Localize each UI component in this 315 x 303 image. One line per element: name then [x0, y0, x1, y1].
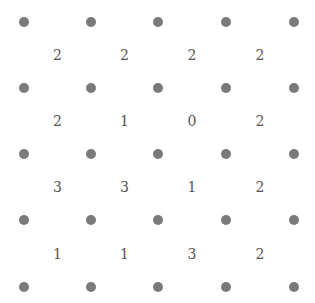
cell-clue[interactable]: 2	[38, 35, 78, 75]
grid-dot	[86, 215, 96, 225]
cell-clue[interactable]: 2	[240, 35, 280, 75]
grid-dot	[289, 282, 299, 292]
grid-dot	[86, 282, 96, 292]
grid-dot	[221, 215, 231, 225]
grid-dot	[221, 282, 231, 292]
grid-dot	[289, 149, 299, 159]
grid-dot	[289, 17, 299, 27]
grid-dot	[153, 83, 163, 93]
grid-dot	[153, 17, 163, 27]
grid-dot	[153, 282, 163, 292]
grid-dot	[19, 83, 29, 93]
cell-clue[interactable]: 2	[172, 35, 212, 75]
cell-clue[interactable]: 2	[240, 234, 280, 274]
cell-clue[interactable]: 2	[240, 167, 280, 207]
cell-clue[interactable]: 3	[172, 234, 212, 274]
grid-dot	[221, 149, 231, 159]
cell-clue[interactable]: 3	[38, 167, 78, 207]
cell-clue[interactable]: 0	[172, 101, 212, 141]
cell-clue[interactable]: 2	[240, 101, 280, 141]
grid-dot	[153, 215, 163, 225]
grid-dot	[86, 149, 96, 159]
grid-dot	[221, 17, 231, 27]
cell-clue[interactable]: 3	[105, 167, 145, 207]
grid-dot	[86, 83, 96, 93]
grid-dot	[289, 83, 299, 93]
cell-clue[interactable]: 2	[38, 101, 78, 141]
grid-dot	[153, 149, 163, 159]
grid-dot	[221, 83, 231, 93]
cell-clue[interactable]: 1	[172, 167, 212, 207]
cell-clue[interactable]: 2	[105, 35, 145, 75]
grid-dot	[86, 17, 96, 27]
cell-clue[interactable]: 1	[38, 234, 78, 274]
cell-clue[interactable]: 1	[105, 234, 145, 274]
grid-dot	[289, 215, 299, 225]
cell-clue[interactable]: 1	[105, 101, 145, 141]
grid-dot	[19, 282, 29, 292]
grid-dot	[19, 149, 29, 159]
grid-dot	[19, 17, 29, 27]
puzzle-board[interactable]: 2222210233121132	[0, 0, 315, 303]
grid-dot	[19, 215, 29, 225]
